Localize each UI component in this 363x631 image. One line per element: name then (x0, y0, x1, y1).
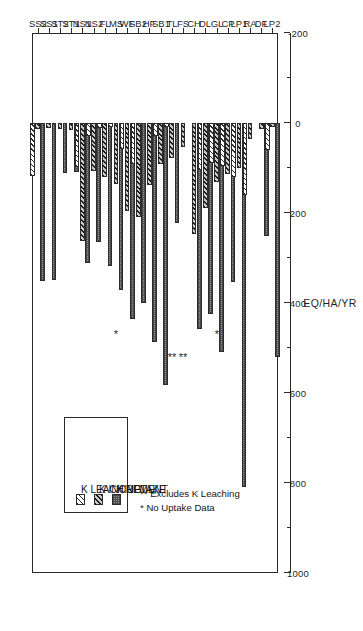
chart-note-1: * No Uptake Data (140, 502, 215, 513)
category-tick-mark (217, 28, 218, 33)
category-tick-mark (116, 28, 117, 33)
bar-ns1-k-leaching (75, 123, 80, 167)
bar-ss2-k-increment (35, 123, 40, 129)
value-tick (284, 122, 290, 123)
value-tick-label: 800 (290, 478, 306, 489)
legend-swatch-k-increment (94, 494, 103, 505)
bar-cp-k-increment (225, 123, 230, 174)
value-tick (287, 257, 290, 258)
category-label-tl: TL (166, 18, 177, 29)
bar-st2-k-increment (58, 123, 63, 129)
bar-ra-k-leaching (243, 123, 248, 195)
category-tick-mark (49, 28, 50, 33)
bar-st2-k-uptake (63, 123, 68, 173)
bar-lp1-k-increment (237, 123, 242, 168)
value-tick (287, 167, 290, 168)
bar-dl-k-leaching (198, 123, 203, 170)
bar-ms-k-leaching (108, 123, 113, 127)
bar-ch-k-increment (192, 123, 197, 234)
bar-lp2-k-uptake (275, 123, 280, 357)
value-tick-label: -200 (288, 28, 308, 39)
bar-ss1-k-uptake (52, 123, 57, 280)
value-tick-label: 200 (290, 208, 306, 219)
value-tick (287, 347, 290, 348)
bar-ns2-k-leaching (86, 123, 91, 136)
bar-ss2-k-uptake (40, 123, 45, 281)
category-tick-mark (272, 28, 273, 33)
bar-st1-k-increment (69, 123, 74, 130)
bar-sb1-k-uptake (163, 123, 168, 385)
bar-lp2-k-leaching (265, 123, 270, 150)
rotated-bar-chart: EQ/HA/YR SITE 10008006004002000-200SS2SS… (0, 0, 363, 631)
bar-ns2-k-uptake (96, 123, 101, 242)
category-tick-mark (38, 28, 39, 33)
annotation-asterisk: ** (167, 354, 176, 360)
bar-tl-k-uptake (175, 123, 180, 223)
bar-fl-k-increment (102, 123, 107, 177)
bar-hf-k-increment (147, 123, 152, 185)
category-tick-mark (239, 28, 240, 33)
category-label-dl: DL (199, 18, 211, 29)
bar-ns1-k-uptake (85, 123, 90, 263)
annotation-asterisk: * (114, 332, 118, 338)
value-tick (287, 437, 290, 438)
category-tick-mark (194, 28, 195, 33)
category-tick-mark (250, 28, 251, 33)
bar-fs-k-increment (181, 123, 186, 147)
bar-tl-k-increment (169, 123, 174, 158)
bar-gl-k-increment (214, 123, 219, 182)
category-tick-mark (60, 28, 61, 33)
category-tick-mark (172, 28, 173, 33)
value-tick (287, 527, 290, 528)
bar-tl-k-leaching (164, 123, 169, 127)
category-tick-mark (228, 28, 229, 33)
value-tick-label: 0 (295, 118, 300, 129)
bar-sb1-k-increment (158, 123, 163, 164)
chart-note-2: ** Excludes K Leaching (140, 488, 240, 499)
category-tick-mark (94, 28, 95, 33)
value-tick-label: 600 (290, 388, 306, 399)
bar-dl-k-increment (203, 123, 208, 208)
bar-df-k-increment (259, 123, 264, 129)
category-tick-mark (183, 28, 184, 33)
legend-swatch-k-leaching (76, 494, 85, 505)
bar-sb1-k-leaching (153, 123, 158, 137)
bar-lp1-k-leaching (231, 123, 236, 177)
value-tick (287, 77, 290, 78)
bar-ss1-k-increment (46, 123, 51, 128)
bar-fl-k-uptake (108, 123, 113, 266)
category-tick-mark (261, 28, 262, 33)
annotation-asterisk: * (214, 332, 218, 338)
category-tick-mark (205, 28, 206, 33)
value-tick-label: 1000 (287, 568, 309, 579)
bar-sb2-k-increment (136, 123, 141, 217)
value-tick-label: 400 (290, 298, 306, 309)
category-tick-mark (161, 28, 162, 33)
legend-swatch-k-uptake (112, 494, 121, 505)
bar-cp-k-leaching (220, 123, 225, 166)
bar-sb2-k-leaching (131, 123, 136, 164)
bar-ms-k-increment (114, 123, 119, 184)
bar-sb2-k-uptake (141, 123, 146, 303)
bar-gl-k-leaching (209, 123, 214, 163)
bar-ns1-k-increment (80, 123, 85, 241)
category-tick-mark (149, 28, 150, 33)
bar-fl-k-leaching (97, 123, 102, 128)
category-label-lp2: LP2 (264, 18, 281, 29)
bar-ra-k-increment (248, 123, 253, 139)
bar-ss2-k-leaching (30, 123, 35, 176)
bar-ns2-k-increment (91, 123, 96, 171)
value-axis-title: EQ/HA/YR (303, 297, 356, 309)
bar-wf-k-leaching (120, 123, 125, 149)
category-tick-mark (138, 28, 139, 33)
annotation-asterisk: ** (179, 354, 188, 360)
bar-lp2-k-increment (270, 123, 275, 128)
category-tick-mark (105, 28, 106, 33)
category-tick-mark (71, 28, 72, 33)
category-tick-mark (82, 28, 83, 33)
category-tick-mark (127, 28, 128, 33)
bar-hf-k-uptake (152, 123, 157, 342)
bar-wf-k-increment (125, 123, 130, 211)
